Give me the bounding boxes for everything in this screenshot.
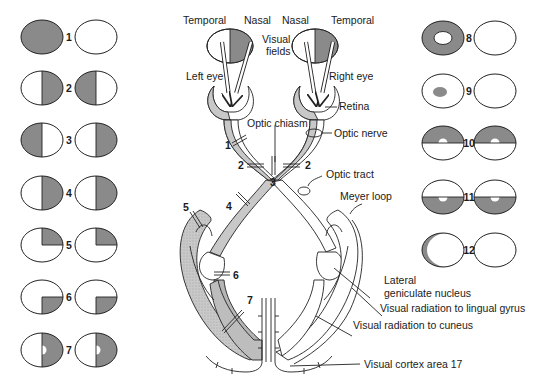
field-defect-column-right: 89101112 [422, 21, 516, 267]
label-right-nasal: Nasal [282, 14, 309, 26]
right-eye-field [75, 123, 117, 157]
field-defect-number: 5 [66, 239, 72, 251]
field-defect-shading [433, 87, 447, 97]
left-eye-field [422, 233, 467, 267]
label-right-temporal: Temporal [331, 14, 374, 26]
field-defect-number: 12 [463, 244, 475, 256]
left-eye-field [21, 333, 63, 367]
field-defect-number: 8 [466, 32, 472, 44]
left-eye-field [21, 176, 63, 210]
label-visual-fields-1: Visual [262, 33, 290, 45]
label-radiation-lingual: Visual radiation to lingual gyrus [380, 302, 525, 314]
visual-pathway-diagram: 1234567 89101112 [0, 0, 538, 385]
left-eye-field [422, 180, 464, 214]
right-eye-field [474, 126, 516, 160]
lesion-label-7: 7 [247, 294, 253, 306]
field-defect-shading [42, 176, 63, 210]
right-eye-field [75, 71, 117, 105]
lesion-label-4: 4 [226, 200, 232, 212]
label-left-temporal: Temporal [183, 14, 226, 26]
right-eye-field [474, 180, 516, 214]
label-left-nasal: Nasal [244, 14, 271, 26]
label-lgn-2: geniculate nucleus [384, 287, 471, 299]
field-defect-shading [75, 71, 96, 105]
left-eye-field [21, 71, 63, 105]
right-eye-field [75, 280, 117, 314]
field-defect-shading [96, 176, 117, 210]
lesion-label-2-right: 2 [305, 159, 311, 171]
label-optic-chiasm: Optic chiasm [247, 117, 308, 129]
field-defect-pair-4: 4 [21, 176, 117, 210]
left-eye-field [21, 123, 63, 157]
field-defect-number: 2 [66, 82, 72, 94]
label-left-eye: Left eye [186, 70, 224, 82]
optic-nerves [224, 120, 324, 180]
lesion-label-1: 1 [225, 139, 231, 151]
right-eye-field [75, 20, 117, 54]
field-defect-shading [96, 123, 117, 157]
right-eye-field [75, 176, 117, 210]
field-defect-pair-5: 5 [21, 228, 117, 262]
field-defect-number: 10 [463, 137, 475, 149]
field-defect-column-left: 1234567 [21, 20, 117, 367]
field-defect-pair-2: 2 [21, 71, 117, 105]
field-defect-pair-10: 10 [422, 126, 516, 160]
field-defect-number: 9 [466, 85, 472, 97]
lesion-label-5: 5 [183, 201, 189, 213]
optic-tracts [210, 180, 336, 256]
label-optic-nerve: Optic nerve [334, 127, 388, 139]
right-eye-field [474, 21, 516, 55]
field-defect-pair-6: 6 [21, 280, 117, 314]
left-eye-field [21, 20, 63, 54]
lesion-label-6: 6 [233, 269, 239, 281]
optic-radiations-left [180, 210, 262, 360]
field-defect-pair-11: 11 [422, 180, 516, 214]
field-defect-number: 4 [66, 187, 72, 199]
lesion-label-2-left: 2 [238, 159, 244, 171]
field-defect-pair-3: 3 [21, 123, 117, 157]
field-defect-number: 3 [66, 134, 72, 146]
label-visual-fields-2: fields [266, 45, 291, 57]
lateral-geniculate-nucleus-left [199, 252, 224, 280]
field-defect-number: 6 [66, 291, 72, 303]
left-eye-field [21, 280, 63, 314]
field-defect-pair-9: 9 [422, 74, 516, 108]
right-eye-field [474, 233, 516, 267]
label-lgn-1: Lateral [384, 274, 416, 286]
lesion-label-3: 3 [270, 176, 276, 188]
right-eye-field [75, 333, 117, 367]
left-eye-field [422, 126, 464, 160]
left-eye-field [422, 74, 464, 108]
label-meyer-loop: Meyer loop [340, 190, 392, 202]
right-eye-field [474, 74, 516, 108]
field-defect-shading [21, 123, 42, 157]
field-defect-number: 1 [66, 31, 72, 43]
field-defect-number: 11 [463, 191, 474, 203]
field-defect-shading [42, 71, 63, 105]
field-defect-number: 7 [66, 344, 72, 356]
label-retina: Retina [339, 100, 370, 112]
label-visual-cortex: Visual cortex area 17 [364, 358, 463, 370]
left-eye-field [21, 228, 63, 262]
label-radiation-cuneus: Visual radiation to cuneus [353, 319, 473, 331]
field-defect-pair-7: 7 [21, 333, 117, 367]
label-right-eye: Right eye [329, 70, 374, 82]
field-defect-pair-12: 12 [422, 233, 516, 267]
label-optic-tract: Optic tract [326, 168, 374, 180]
right-eye-field [75, 228, 117, 262]
field-defect-pair-8: 8 [422, 21, 516, 55]
field-defect-pair-1: 1 [21, 20, 117, 54]
left-eye-field [422, 21, 464, 55]
